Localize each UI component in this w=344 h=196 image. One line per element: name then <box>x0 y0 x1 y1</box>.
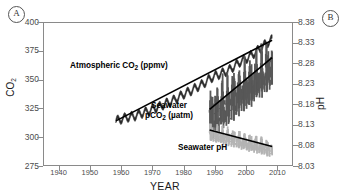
y-tickmark-left-350 <box>37 80 43 81</box>
annotation-atmospheric-co2: Atmospheric CO2 (ppmv) <box>70 61 168 71</box>
x-tickmark-1960 <box>121 166 122 171</box>
y-tickmark-left-275 <box>37 166 43 167</box>
y-tick-right-8.08: 8.08 <box>298 141 315 150</box>
y-axis-right-title: pH <box>315 89 326 119</box>
y-tickmark-left-325 <box>37 108 43 109</box>
x-tickmark-1990 <box>215 166 216 171</box>
y-tickmark-left-375 <box>37 51 43 52</box>
x-tickmark-1970 <box>152 166 153 171</box>
y-tickmark-left-300 <box>37 137 43 138</box>
y-tickmark-right-8.33 <box>293 43 299 44</box>
x-tickmark-1940 <box>59 166 60 171</box>
x-axis-title: YEAR <box>0 180 330 192</box>
plot-area <box>43 22 293 166</box>
y-axis-left-ticks: 275300325350375400 <box>14 0 39 196</box>
annotation-seawater-ph: Seawater pH <box>178 143 227 153</box>
y-axis-left-title: CO2 <box>5 68 16 108</box>
x-tickmark-1950 <box>90 166 91 171</box>
x-tickmark-2010 <box>277 166 278 171</box>
y-tick-right-8.13: 8.13 <box>298 120 315 129</box>
y-tick-right-8.18: 8.18 <box>298 100 315 109</box>
x-tickmark-2000 <box>246 166 247 171</box>
y-tick-right-8.28: 8.28 <box>298 59 315 68</box>
x-tickmark-1980 <box>184 166 185 171</box>
y-tickmark-right-8.13 <box>293 125 299 126</box>
y-tick-right-8.23: 8.23 <box>298 79 315 88</box>
y-tickmark-left-400 <box>37 22 43 23</box>
y-tickmark-right-8.23 <box>293 84 299 85</box>
y-tickmark-right-8.03 <box>293 166 299 167</box>
y-tickmark-right-8.18 <box>293 104 299 105</box>
plot-series-svg <box>44 23 294 167</box>
figure-co2-ph-chart: A B 275300325350375400 8.038.088.138.188… <box>0 0 344 196</box>
y-tickmark-right-8.38 <box>293 22 299 23</box>
series-1-seawater-pco2 <box>209 43 273 139</box>
y-tickmark-right-8.08 <box>293 145 299 146</box>
annotation-seawater-pco2: SeawaterpCO2 (µatm) <box>145 101 193 121</box>
y-tick-right-8.38: 8.38 <box>298 18 315 27</box>
y-tickmark-right-8.28 <box>293 63 299 64</box>
y-tick-right-8.33: 8.33 <box>298 38 315 47</box>
